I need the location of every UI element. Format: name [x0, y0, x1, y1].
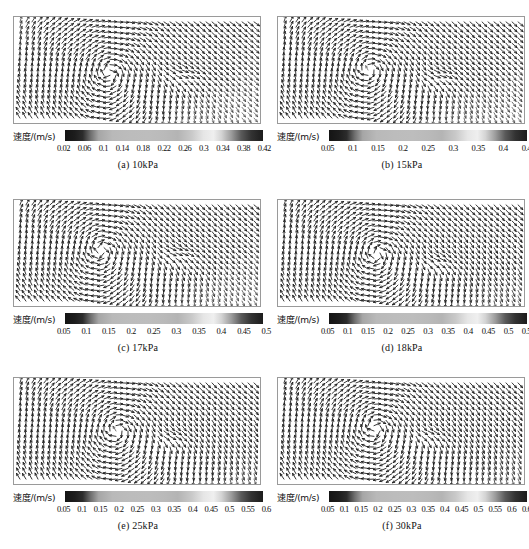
colorbar-row-d: 速度/(m/s) 0.050.10.150.20.250.30.350.40.4…: [277, 314, 527, 326]
colorbar-tick: 0.15: [94, 504, 107, 514]
colorbar-tick: 0.55: [522, 326, 529, 336]
colorbar-tick: 0.42: [258, 143, 271, 153]
colorbar-tick: 0.45: [455, 504, 468, 514]
colorbar-ticks-f: 0.050.10.150.20.250.30.350.40.450.50.550…: [321, 504, 529, 514]
colorbar-tick: 0.05: [321, 143, 334, 153]
colorbar-axis-label-d: 速度/(m/s): [277, 314, 329, 326]
colorbar-tick: 0.35: [442, 326, 455, 336]
panel-f: 速度/(m/s) 0.050.10.150.20.250.30.350.40.4…: [277, 377, 527, 531]
colorbar-tick: 0.45: [237, 326, 250, 336]
colorbar-wrap-d: 0.050.10.150.20.250.30.350.40.450.50.55: [329, 314, 527, 326]
colorbar-tick: 0.35: [192, 326, 205, 336]
colorbar-tick: 0.25: [421, 143, 434, 153]
colorbar-tick: 0.05: [321, 504, 334, 514]
colorbar-axis-label-b: 速度/(m/s): [277, 131, 329, 143]
colorbar-tick: 0.3: [407, 504, 416, 514]
colorbar-tick: 0.45: [522, 143, 529, 153]
colorbar-row-b: 速度/(m/s) 0.050.10.150.20.250.30.350.40.4…: [277, 131, 527, 143]
colorbar-tick: 0.1: [340, 504, 349, 514]
colorbar-wrap-a: 0.020.060.10.140.180.220.260.30.340.380.…: [65, 131, 263, 143]
colorbar-tick: 0.4: [464, 326, 473, 336]
panel-e: 速度/(m/s) 0.050.10.150.20.250.30.350.40.4…: [13, 377, 263, 531]
colorbar-tick: 0.05: [57, 326, 70, 336]
colorbar-tick: 0.55: [241, 504, 254, 514]
colorbar-ticks-e: 0.050.10.150.20.250.30.350.40.450.50.550…: [57, 504, 271, 514]
colorbar-axis-label-c: 速度/(m/s): [13, 314, 65, 326]
colorbar-tick: 0.5: [474, 504, 483, 514]
colorbar-tick: 0.18: [137, 143, 150, 153]
colorbar-row-e: 速度/(m/s) 0.050.10.150.20.250.30.350.40.4…: [13, 492, 263, 504]
panel-caption-a: (a) 10kPa: [13, 159, 263, 170]
colorbar-tick: 0.06: [78, 143, 91, 153]
colorbar-tick: 0.45: [482, 326, 495, 336]
colorbar-tick: 0.2: [398, 143, 407, 153]
colorbar-ticks-c: 0.050.10.150.20.250.30.350.40.450.5: [57, 326, 271, 336]
quiver-svg-f: [278, 378, 524, 484]
colorbar-tick: 0.35: [472, 143, 485, 153]
colorbar-gradient-c: [65, 313, 263, 324]
colorbar-tick: 0.3: [151, 504, 160, 514]
colorbar-tick: 0.26: [178, 143, 191, 153]
colorbar-wrap-e: 0.050.10.150.20.250.30.350.40.450.50.550…: [65, 492, 263, 504]
vector-field-plot-e: [13, 377, 261, 485]
colorbar-tick: 0.38: [237, 143, 250, 153]
colorbar-tick: 0.15: [371, 143, 384, 153]
colorbar-wrap-f: 0.050.10.150.20.250.30.350.40.450.50.550…: [329, 492, 527, 504]
panel-c: 速度/(m/s) 0.050.10.150.20.250.30.350.40.4…: [13, 199, 263, 353]
colorbar-row-c: 速度/(m/s) 0.050.10.150.20.250.30.350.40.4…: [13, 314, 263, 326]
colorbar-tick: 0.4: [440, 504, 449, 514]
colorbar-tick: 0.15: [102, 326, 115, 336]
colorbar-tick: 0.1: [348, 143, 357, 153]
colorbar-tick: 0.1: [343, 326, 352, 336]
colorbar-axis-label-e: 速度/(m/s): [13, 492, 65, 504]
colorbar-gradient-f: [329, 491, 527, 502]
panel-caption-c: (c) 17kPa: [13, 342, 263, 353]
colorbar-axis-label-f: 速度/(m/s): [277, 492, 329, 504]
colorbar-tick: 0.6: [262, 504, 271, 514]
colorbar-tick: 0.2: [373, 504, 382, 514]
colorbar-tick: 0.05: [321, 326, 334, 336]
colorbar-tick: 0.25: [131, 504, 144, 514]
colorbar-tick: 0.25: [401, 326, 414, 336]
colorbar-axis-label-a: 速度/(m/s): [13, 131, 65, 143]
colorbar-tick: 0.1: [99, 143, 108, 153]
colorbar-row-f: 速度/(m/s) 0.050.10.150.20.250.30.350.40.4…: [277, 492, 527, 504]
colorbar-tick: 0.15: [354, 504, 367, 514]
panel-caption-d: (d) 18kPa: [277, 342, 527, 353]
panel-caption-f: (f) 30kPa: [277, 520, 527, 531]
vector-field-plot-d: [277, 199, 525, 307]
colorbar-tick: 0.2: [126, 326, 135, 336]
vector-field-plot-b: [277, 16, 525, 124]
vector-field-plot-f: [277, 377, 525, 485]
colorbar-tick: 0.65: [522, 504, 529, 514]
colorbar-tick: 0.34: [216, 143, 229, 153]
colorbar-tick: 0.35: [168, 504, 181, 514]
colorbar-row-a: 速度/(m/s) 0.020.060.10.140.180.220.260.30…: [13, 131, 263, 143]
colorbar-tick: 0.05: [57, 504, 70, 514]
colorbar-tick: 0.25: [388, 504, 401, 514]
colorbar-wrap-b: 0.050.10.150.20.250.30.350.40.45: [329, 131, 527, 143]
colorbar-gradient-a: [65, 130, 263, 141]
quiver-svg-e: [14, 378, 260, 484]
colorbar-gradient-e: [65, 491, 263, 502]
panel-b: 速度/(m/s) 0.050.10.150.20.250.30.350.40.4…: [277, 16, 527, 170]
panel-caption-e: (e) 25kPa: [13, 520, 263, 531]
panel-a: 速度/(m/s) 0.020.060.10.140.180.220.260.30…: [13, 16, 263, 170]
colorbar-tick: 0.1: [77, 504, 86, 514]
quiver-svg-d: [278, 200, 524, 306]
colorbar-tick: 0.35: [421, 504, 434, 514]
colorbar-tick: 0.1: [81, 326, 90, 336]
panel-d: 速度/(m/s) 0.050.10.150.20.250.30.350.40.4…: [277, 199, 527, 353]
colorbar-ticks-d: 0.050.10.150.20.250.30.350.40.450.50.55: [321, 326, 529, 336]
colorbar-tick: 0.22: [157, 143, 170, 153]
figure-panel-grid: 速度/(m/s) 0.020.060.10.140.180.220.260.30…: [0, 0, 529, 549]
colorbar-tick: 0.2: [383, 326, 392, 336]
colorbar-tick: 0.3: [448, 143, 457, 153]
colorbar-tick: 0.45: [204, 504, 217, 514]
colorbar-tick: 0.4: [188, 504, 197, 514]
colorbar-tick: 0.5: [262, 326, 271, 336]
colorbar-tick: 0.5: [225, 504, 234, 514]
colorbar-tick: 0.6: [507, 504, 516, 514]
panel-caption-b: (b) 15kPa: [277, 159, 527, 170]
colorbar-tick: 0.25: [147, 326, 160, 336]
